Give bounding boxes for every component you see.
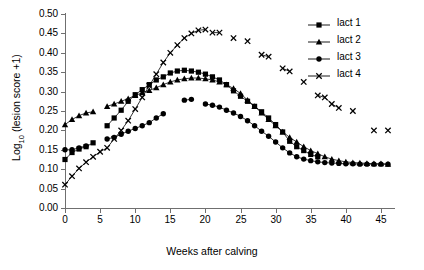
data-point: [90, 140, 95, 145]
data-point: [336, 161, 341, 166]
data-point: [252, 123, 257, 128]
data-point: [175, 42, 180, 47]
legend-label: lact 1: [337, 18, 361, 28]
data-point: [357, 161, 362, 166]
data-point: [105, 123, 110, 128]
data-point: [259, 52, 264, 57]
data-point: [196, 70, 201, 75]
data-point: [294, 139, 300, 145]
data-point: [322, 160, 327, 165]
x-axis-tick: [241, 209, 242, 213]
data-point: [237, 90, 243, 96]
data-point: [286, 134, 292, 140]
data-point: [90, 109, 96, 115]
data-point: [343, 161, 348, 166]
legend-label: lact 3: [337, 52, 361, 62]
data-point: [153, 85, 159, 91]
data-point: [140, 95, 145, 100]
y-axis-tick-label: 0.20: [24, 125, 58, 135]
data-point: [329, 101, 334, 106]
data-point: [322, 95, 327, 100]
data-point: [266, 54, 271, 59]
data-point: [147, 120, 152, 125]
data-point: [161, 111, 166, 116]
data-point: [125, 128, 130, 133]
data-point: [189, 97, 194, 102]
legend: lact 1lact 2lact 3lact 4: [306, 14, 416, 82]
x-axis-tick-label: 40: [331, 215, 361, 225]
data-point: [308, 147, 314, 153]
data-point: [133, 126, 138, 131]
data-point: [231, 35, 236, 40]
x-axis-tick: [276, 209, 277, 213]
x-axis-tick-label: 10: [120, 215, 150, 225]
data-point: [266, 134, 271, 139]
data-point: [259, 128, 264, 133]
legend-item-lact-1[interactable]: lact 1: [306, 14, 416, 31]
data-point: [62, 147, 67, 152]
data-point: [371, 161, 376, 166]
data-point: [287, 69, 292, 74]
data-point: [154, 71, 159, 76]
data-point: [315, 150, 321, 156]
data-point: [154, 77, 159, 82]
x-axis-tick-label: 15: [155, 215, 185, 225]
y-axis-tick-label: 0.10: [24, 164, 58, 174]
data-point: [69, 147, 74, 152]
data-point: [133, 106, 138, 111]
y-axis-tick-label: 0.25: [24, 106, 58, 116]
data-point: [125, 95, 131, 101]
data-point: [69, 173, 74, 178]
data-point: [112, 115, 117, 120]
data-point: [189, 31, 194, 36]
x-axis-tick: [381, 209, 382, 213]
data-point: [104, 145, 109, 150]
data-point: [62, 182, 67, 187]
x-axis-tick-label: 45: [366, 215, 396, 225]
data-point: [161, 74, 166, 79]
x-axis-tick-label: 20: [190, 215, 220, 225]
legend-marker: [316, 56, 321, 61]
x-axis-title: Weeks after calving: [0, 245, 424, 257]
legend-item-lact-3[interactable]: lact 3: [306, 48, 416, 65]
y-axis-tick-label: 0.30: [24, 87, 58, 97]
data-point: [385, 128, 390, 133]
data-point: [301, 156, 306, 161]
legend-item-lact-4[interactable]: lact 4: [306, 65, 416, 82]
y-axis-tick-label: 0.05: [24, 184, 58, 194]
x-axis-tick-label: 0: [50, 215, 80, 225]
data-point: [294, 144, 299, 149]
data-point: [217, 104, 222, 109]
legend-marker-triangle-icon: [306, 34, 332, 46]
x-axis-tick: [311, 209, 312, 213]
data-point: [175, 68, 180, 73]
y-axis-tick-label: 0.50: [24, 9, 58, 19]
data-point: [210, 102, 215, 107]
data-point: [224, 108, 229, 113]
legend-label: lact 2: [337, 35, 361, 45]
x-axis-tick: [170, 209, 171, 213]
legend-item-lact-2[interactable]: lact 2: [306, 31, 416, 48]
series-lact-3: [62, 97, 390, 167]
data-point: [83, 160, 88, 165]
x-axis-tick-label: 30: [261, 215, 291, 225]
data-point: [125, 118, 130, 123]
x-axis-tick-label: 25: [226, 215, 256, 225]
data-point: [301, 143, 307, 149]
data-point: [350, 161, 355, 166]
legend-label: lact 4: [337, 69, 361, 79]
data-point: [371, 128, 376, 133]
data-point: [182, 97, 187, 102]
data-point: [322, 154, 328, 160]
series-line: [107, 70, 318, 157]
data-point: [168, 50, 173, 55]
data-point: [385, 161, 390, 166]
data-point: [119, 108, 124, 113]
data-point: [118, 98, 124, 104]
data-point: [280, 145, 285, 150]
x-axis-tick: [100, 209, 101, 213]
y-axis-tick-label: 0.35: [24, 67, 58, 77]
data-point: [364, 161, 369, 166]
series-line: [318, 95, 339, 107]
data-point: [378, 161, 383, 166]
